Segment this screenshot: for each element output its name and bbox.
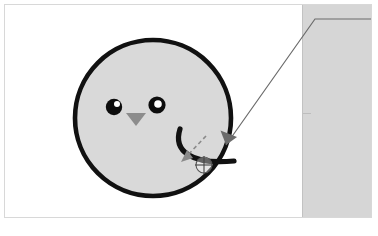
panel-divider [303,113,311,114]
right-side-panel[interactable] [302,4,372,218]
left-eye-highlight [114,101,120,107]
drawing-canvas[interactable] [4,4,372,218]
right-eye-highlight [154,100,162,108]
left-eye[interactable] [106,99,122,115]
screenshot-root [0,0,378,236]
head-circle[interactable] [75,40,231,196]
